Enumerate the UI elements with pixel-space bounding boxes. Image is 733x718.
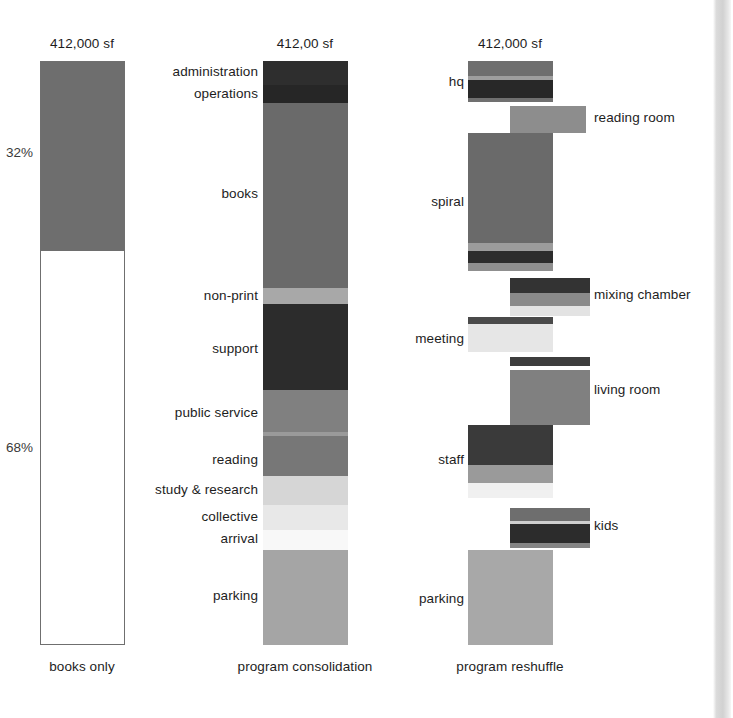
label-administration: administration — [108, 64, 258, 79]
hq-band-1 — [468, 61, 553, 76]
label-study-research: study & research — [108, 482, 258, 497]
block-living-room — [510, 357, 590, 425]
column-3-caption: program reshuffle — [435, 659, 585, 674]
label-books: books — [108, 186, 258, 201]
label-meeting: meeting — [380, 331, 464, 346]
segment-support — [263, 304, 348, 390]
column-2-total-label: 412,00 sf — [245, 36, 365, 51]
kids-band-4 — [510, 543, 590, 548]
block-reading-room — [510, 106, 586, 133]
block-hq — [468, 61, 553, 101]
block-kids — [510, 508, 590, 548]
label-reading-room: reading room — [594, 110, 675, 125]
scan-artifact-strip — [713, 0, 731, 718]
kids-band-3 — [510, 524, 590, 543]
label-spiral: spiral — [380, 194, 464, 209]
parking-col3-band-1 — [468, 550, 553, 645]
segment-study-research — [263, 476, 348, 505]
hq-band-3 — [468, 80, 553, 98]
segment-reading — [263, 436, 348, 476]
label-mixing-chamber: mixing chamber — [594, 287, 691, 302]
living-room-band-1 — [510, 357, 590, 366]
column-2-bar — [263, 61, 348, 645]
block-staff — [468, 425, 553, 498]
spiral-band-3 — [468, 251, 553, 263]
mixing-chamber-band-1 — [510, 278, 590, 293]
staff-band-1 — [468, 425, 553, 465]
label-hq: hq — [380, 74, 464, 89]
staff-band-3 — [468, 483, 553, 498]
meeting-band-2 — [468, 324, 553, 352]
block-meeting — [468, 317, 553, 352]
mixing-chamber-band-2 — [510, 293, 590, 306]
column-1-percent-remainder: 68% — [6, 440, 33, 455]
segment-collective — [263, 505, 348, 530]
column-1-caption: books only — [22, 659, 142, 674]
label-arrival: arrival — [108, 531, 258, 546]
column-1-total-label: 412,000 sf — [22, 36, 142, 51]
spiral-band-4 — [468, 263, 553, 271]
diagram-canvas: 412,000 sf 32% 68% books only 412,00 sf … — [0, 0, 733, 718]
label-operations: operations — [108, 86, 258, 101]
segment-administration — [263, 61, 348, 85]
spiral-band-2 — [468, 243, 553, 251]
segment-non-print — [263, 288, 348, 304]
label-reading: reading — [108, 452, 258, 467]
label-living-room: living room — [594, 382, 660, 397]
segment-public-service — [263, 390, 348, 432]
label-public-service: public service — [108, 405, 258, 420]
segment-arrival — [263, 530, 348, 550]
kids-band-1 — [510, 508, 590, 521]
block-parking-col3 — [468, 550, 553, 645]
label-non-print: non-print — [108, 288, 258, 303]
label-staff: staff — [380, 452, 464, 467]
label-parking-col3: parking — [380, 591, 464, 606]
segment-books — [263, 103, 348, 288]
block-spiral — [468, 133, 553, 271]
block-mixing-chamber — [510, 278, 590, 316]
label-parking-col2: parking — [108, 588, 258, 603]
column-1-percent-books: 32% — [6, 145, 33, 160]
meeting-band-1 — [468, 317, 553, 324]
column-3-total-label: 412,000 sf — [450, 36, 570, 51]
label-collective: collective — [108, 509, 258, 524]
staff-band-2 — [468, 465, 553, 483]
label-support: support — [108, 341, 258, 356]
segment-operations — [263, 85, 348, 103]
mixing-chamber-band-3 — [510, 306, 590, 316]
reading-room-band-1 — [510, 106, 586, 133]
column-2-caption: program consolidation — [230, 659, 380, 674]
label-kids: kids — [594, 518, 618, 533]
spiral-band-1 — [468, 133, 553, 243]
living-room-band-3 — [510, 370, 590, 425]
hq-band-4 — [468, 98, 553, 102]
segment-parking — [263, 550, 348, 645]
